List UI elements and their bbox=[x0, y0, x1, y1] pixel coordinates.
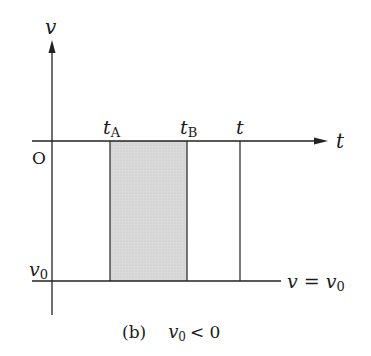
v0-label: v0 bbox=[29, 258, 48, 282]
caption: (b)v0< 0 bbox=[122, 321, 220, 344]
t-label: t bbox=[236, 116, 244, 138]
v-axis-arrow-icon bbox=[49, 40, 56, 53]
tB-label: tB bbox=[180, 116, 197, 140]
shaded-area bbox=[110, 141, 187, 281]
velocity-time-diagram: v t O tA tB t v0 v=v0 (b)v0< 0 bbox=[0, 0, 371, 356]
origin-label: O bbox=[32, 148, 46, 168]
tA-label: tA bbox=[103, 116, 121, 140]
v-axis-label: v bbox=[45, 15, 57, 39]
t-axis-arrow-icon bbox=[314, 138, 328, 145]
v-equals-v0-label: v=v0 bbox=[287, 270, 345, 294]
t-axis-label: t bbox=[336, 129, 345, 153]
